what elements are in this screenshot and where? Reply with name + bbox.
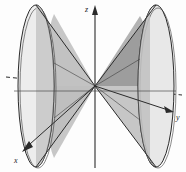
z-axis-arrowhead-icon xyxy=(92,5,98,15)
z-axis-label: z xyxy=(84,5,89,14)
x-axis-label: x xyxy=(13,156,18,165)
y-axis-label: y xyxy=(175,113,180,122)
cone-right-nap xyxy=(95,0,176,172)
cone-figure-container: z y x xyxy=(0,0,186,172)
double-cone-diagram: z y x xyxy=(0,0,186,172)
